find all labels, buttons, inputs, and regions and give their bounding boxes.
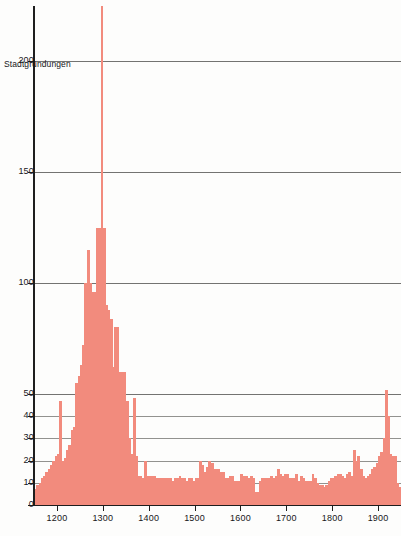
x-tick-mark-1700 <box>286 506 287 511</box>
x-tick-mark-1400 <box>149 506 150 511</box>
x-tick-mark-1300 <box>103 506 104 511</box>
y-tick-label-150: 150 <box>8 167 34 176</box>
x-tick-label-1200: 1200 <box>37 513 77 523</box>
y-tick-label-10: 10 <box>8 478 34 487</box>
x-tick-label-1300: 1300 <box>83 513 123 523</box>
x-tick-label-1900: 1900 <box>358 513 398 523</box>
y-tick-label-100: 100 <box>8 278 34 287</box>
x-tick-label-1700: 1700 <box>266 513 306 523</box>
y-tick-label-40: 40 <box>8 411 34 420</box>
y-tick-label-20: 20 <box>8 456 34 465</box>
x-tick-mark-1900 <box>378 506 379 511</box>
chart-container: 20015010050403020100 1200130014001500160… <box>0 0 401 536</box>
x-tick-mark-1600 <box>240 506 241 511</box>
y-tick-label-0: 0 <box>8 500 34 509</box>
x-tick-label-1400: 1400 <box>129 513 169 523</box>
x-tick-mark-1800 <box>332 506 333 511</box>
histogram-bars <box>34 6 401 505</box>
y-axis-title: Stadtgründungen <box>4 59 71 69</box>
y-tick-label-50: 50 <box>8 389 34 398</box>
x-tick-label-1500: 1500 <box>175 513 215 523</box>
y-tick-label-30: 30 <box>8 433 34 442</box>
x-tick-label-1800: 1800 <box>312 513 352 523</box>
y-axis-line <box>33 6 35 506</box>
plot-area <box>34 6 401 505</box>
x-axis-line <box>33 505 401 506</box>
x-tick-mark-1200 <box>57 506 58 511</box>
x-tick-mark-1500 <box>195 506 196 511</box>
x-tick-label-1600: 1600 <box>220 513 260 523</box>
